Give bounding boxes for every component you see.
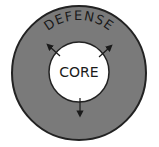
core-defense-diagram: DEFENSE CORE	[0, 0, 159, 147]
core-label: CORE	[59, 64, 98, 80]
